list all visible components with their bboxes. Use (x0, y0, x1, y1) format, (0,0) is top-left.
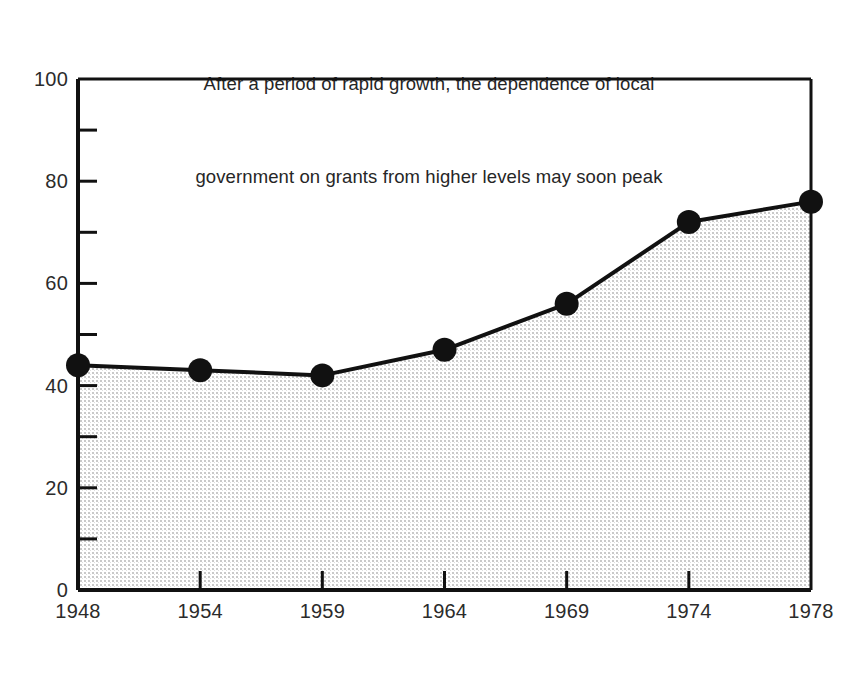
x-tick-label-1969: 1969 (507, 600, 627, 623)
plot-area: 020406080100 194819541959196419691974197… (0, 0, 858, 674)
x-axis-tick-labels: 1948195419591964196919741978 (0, 0, 858, 674)
x-tick-label-1954: 1954 (140, 600, 260, 623)
chart-figure: After a period of rapid growth, the depe… (0, 0, 858, 674)
x-tick-label-1948: 1948 (18, 600, 138, 623)
x-tick-label-1959: 1959 (262, 600, 382, 623)
x-tick-label-1978: 1978 (751, 600, 858, 623)
x-tick-label-1964: 1964 (385, 600, 505, 623)
x-tick-label-1974: 1974 (629, 600, 749, 623)
